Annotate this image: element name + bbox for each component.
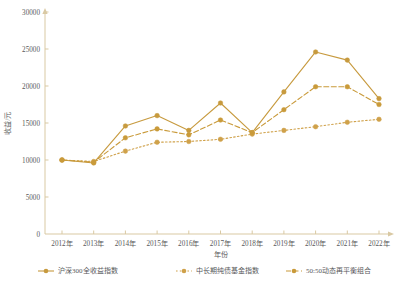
x-tick-label: 2016年: [178, 239, 199, 248]
data-point: [282, 107, 287, 112]
y-tick-label: 25000: [22, 46, 40, 54]
data-point: [218, 118, 223, 123]
y-tick-label: 10000: [22, 157, 40, 165]
data-point: [187, 139, 192, 144]
data-point: [218, 137, 223, 142]
y-tick-label: 20000: [22, 83, 40, 91]
x-tick-label: 2019年: [273, 239, 294, 248]
legend-item-1[interactable]: 沪深300全收益指数: [38, 266, 118, 275]
data-point: [282, 90, 287, 95]
data-point: [313, 84, 318, 89]
x-tick-label: 2014年: [115, 239, 136, 248]
x-tick-label: 2018年: [242, 239, 263, 248]
data-point: [345, 58, 350, 63]
x-tick-label: 2021年: [337, 239, 358, 248]
data-point: [345, 84, 350, 89]
data-point: [155, 113, 160, 118]
data-point: [218, 101, 223, 106]
data-point: [282, 128, 287, 133]
data-point: [123, 149, 128, 154]
data-point: [313, 50, 318, 55]
x-axis-title: 年份: [214, 250, 228, 259]
y-tick-label: 5000: [26, 194, 41, 202]
y-tick-label: 0: [36, 231, 40, 239]
legend-label: 中长期纯债基金指数: [196, 266, 259, 275]
chart-container: 0500010000150002000025000300002012年2013年…: [0, 0, 401, 284]
data-point: [123, 124, 128, 129]
legend-marker: [44, 269, 49, 274]
data-point: [313, 124, 318, 129]
legend-item-2[interactable]: 中长期纯债基金指数: [176, 266, 259, 275]
y-tick-label: 30000: [22, 9, 40, 17]
data-point: [155, 140, 160, 145]
line-chart: 0500010000150002000025000300002012年2013年…: [0, 0, 401, 284]
data-point: [377, 96, 382, 101]
x-tick-label: 2020年: [305, 239, 326, 248]
y-axis-title: 收益/元: [3, 112, 12, 135]
legend-label: 沪深300全收益指数: [58, 266, 118, 275]
legend-label: 50:50动态再平衡组合: [306, 266, 371, 275]
data-point: [377, 102, 382, 107]
data-point: [60, 158, 65, 163]
x-tick-label: 2015年: [146, 239, 167, 248]
legend-marker: [292, 269, 297, 274]
data-point: [155, 127, 160, 132]
legend-item-3[interactable]: 50:50动态再平衡组合: [286, 266, 371, 275]
y-axis-arrow: [42, 8, 47, 14]
data-point: [123, 136, 128, 141]
data-point: [345, 120, 350, 125]
series-line-1: [62, 52, 379, 163]
legend-marker: [182, 269, 187, 274]
x-tick-label: 2022年: [368, 239, 389, 248]
y-tick-label: 15000: [22, 120, 40, 128]
x-tick-label: 2012年: [51, 239, 72, 248]
data-point: [187, 128, 192, 133]
x-tick-label: 2013年: [83, 239, 104, 248]
data-point: [187, 133, 192, 138]
x-tick-label: 2017年: [210, 239, 231, 248]
data-point: [91, 160, 96, 165]
data-point: [250, 130, 255, 135]
x-axis-arrow: [388, 231, 394, 236]
data-point: [377, 117, 382, 122]
